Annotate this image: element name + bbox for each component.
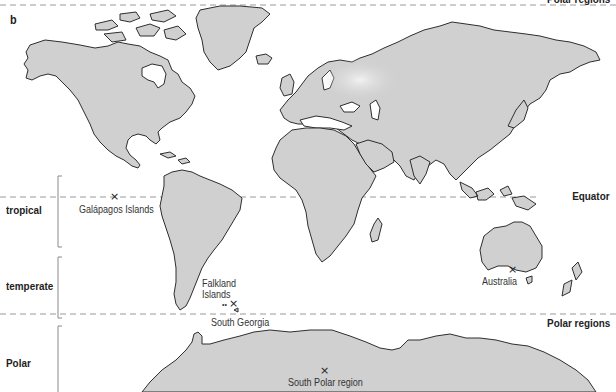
zone-label-temperate: temperate	[6, 281, 53, 292]
north-america	[24, 40, 195, 168]
zone-label-polar: Polar	[6, 358, 31, 369]
top-polar-regions-label: Polar regions	[547, 0, 610, 5]
falklands-marker-icon: ×	[229, 298, 238, 309]
zone-label-tropical: tropical	[6, 205, 42, 216]
zone-brackets	[58, 176, 62, 392]
australia-marker-icon: ×	[508, 264, 517, 275]
galapagos-marker-icon: ×	[110, 191, 119, 202]
location-label-falkland-line1: Falkland	[202, 278, 236, 289]
arctic-islands	[95, 10, 186, 42]
polar-bracket	[58, 326, 62, 392]
falkland-islands-dots: ••	[222, 301, 227, 308]
location-label-south-georgia: South Georgia	[211, 317, 269, 328]
iceland	[256, 54, 272, 64]
temperate-bracket	[58, 257, 62, 318]
location-label-falkland-line2: Islands	[202, 289, 231, 300]
madagascar	[370, 218, 382, 242]
eurasia-highlight	[320, 58, 400, 102]
panel-label: b	[10, 14, 17, 26]
bottom-polar-regions-label: Polar regions	[547, 318, 610, 329]
location-label-galapagos: Galápagos Islands	[79, 204, 154, 215]
tropical-bracket	[58, 176, 62, 247]
location-label-australia: Australia	[482, 276, 517, 287]
southeast-asia-islands	[460, 182, 536, 210]
caribbean-islands	[160, 152, 190, 164]
tasmania	[526, 276, 532, 284]
new-zealand	[562, 262, 582, 296]
antarctica	[142, 330, 596, 392]
equator-label: Equator	[573, 191, 610, 202]
location-label-south-polar-region: South Polar region	[288, 377, 363, 388]
british-isles	[280, 74, 294, 96]
south-polar-marker-icon: ×	[320, 365, 329, 376]
world-map	[0, 0, 616, 392]
